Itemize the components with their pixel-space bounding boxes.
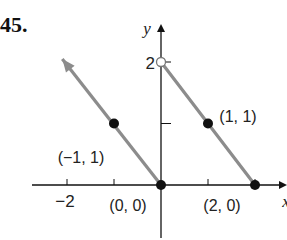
point-label: (−1, 1): [58, 149, 105, 166]
filled-point: [203, 119, 213, 129]
point-label: (2, 0): [203, 197, 240, 214]
filled-point: [109, 119, 119, 129]
point-label: (0, 0): [109, 197, 146, 214]
point-label: (1, 1): [219, 108, 256, 125]
y-tick-label: 2: [146, 54, 155, 73]
x-tick-label: −2: [55, 192, 74, 211]
open-point: [157, 58, 166, 67]
y-axis-label: y: [141, 19, 151, 38]
piecewise-graph: −22yx(−1, 1)(0, 0)(1, 1)(2, 0): [0, 0, 287, 240]
x-axis-label: x: [281, 192, 287, 211]
filled-point: [156, 180, 166, 190]
filled-point: [250, 180, 260, 190]
